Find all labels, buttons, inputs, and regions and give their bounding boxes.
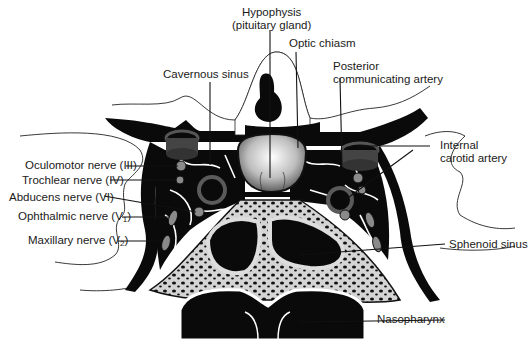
label-abducens-nerve: Abducens nerve (VI): [9, 191, 114, 204]
label-hypophysis-line1: Hypophysis: [232, 6, 311, 19]
label-trochlear-nerve: Trochlear nerve (IV): [22, 174, 124, 187]
label-sphenoid-sinus: Sphenoid sinus: [449, 238, 528, 251]
internal-carotid-artery-right: [326, 186, 354, 214]
label-posterior-line2: communicating artery: [333, 73, 443, 86]
supraclinoid-carotid-left: [166, 131, 198, 160]
label-internal-carotid-artery: Internal carotid artery: [440, 139, 507, 165]
label-hypophysis: Hypophysis (pituitary gland): [232, 6, 311, 32]
label-maxillary-nerve: Maxillary nerve (V2): [28, 234, 128, 250]
internal-carotid-artery-left: [197, 175, 227, 205]
label-ophthalmic-suffix: ): [127, 210, 131, 222]
label-optic-chiasm: Optic chiasm: [289, 37, 355, 50]
label-hypophysis-line2: (pituitary gland): [232, 19, 311, 32]
label-maxillary-text: Maxillary nerve (V: [28, 234, 120, 246]
label-cavernous-sinus: Cavernous sinus: [163, 68, 249, 81]
label-oculomotor-nerve: Oculomotor nerve (III): [25, 159, 137, 172]
label-internal-carotid-line1: Internal: [440, 139, 507, 152]
label-ophthalmic-text: Ophthalmic nerve (V: [18, 210, 123, 222]
label-posterior-line1: Posterior: [333, 60, 443, 73]
label-internal-carotid-line2: carotid artery: [440, 152, 507, 165]
label-nasopharynx: Nasopharynx: [377, 313, 445, 326]
optic-chiasm-region: [235, 52, 320, 140]
label-maxillary-suffix: ): [124, 234, 128, 246]
supraclinoid-carotid-right: [342, 143, 378, 171]
label-posterior-communicating-artery: Posterior communicating artery: [333, 60, 443, 86]
label-ophthalmic-nerve: Ophthalmic nerve (V1): [18, 210, 131, 226]
